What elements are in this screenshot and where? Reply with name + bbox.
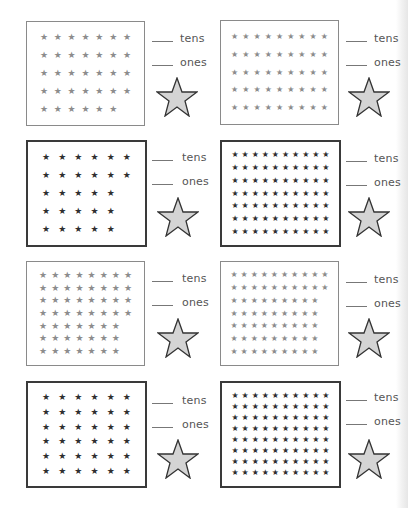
counting-star-icon: ★ [311, 177, 321, 185]
counting-star-icon: ★ [38, 393, 54, 402]
ones-answer-blank-5[interactable] [152, 305, 173, 306]
counting-star-icon: ★ [51, 51, 65, 60]
counting-star-icon: ★ [229, 284, 239, 292]
counting-star-icon: ★ [103, 408, 119, 417]
counting-star-icon: ★ [240, 202, 250, 210]
counting-star-icon: ★ [269, 348, 279, 356]
counting-star-icon: ★ [321, 177, 331, 185]
counting-star-icon: ★ [65, 33, 79, 42]
ones-answer-blank-8[interactable] [346, 424, 367, 425]
counting-star-icon: ★ [229, 69, 240, 77]
tens-label-8: tens [374, 391, 399, 404]
counting-star-icon: ★ [270, 151, 280, 159]
counting-star-icon: ★ [260, 151, 270, 159]
tens-answer-blank-7[interactable] [152, 403, 173, 404]
counting-star-icon: ★ [61, 347, 73, 356]
counting-star-icon: ★ [285, 104, 296, 112]
counting-star-icon: ★ [98, 271, 110, 280]
tens-answer-blank-4[interactable] [346, 161, 367, 162]
counting-star-icon: ★ [122, 296, 134, 305]
counting-star-icon: ★ [249, 348, 259, 356]
counting-star-icon: ★ [86, 347, 98, 356]
counting-star-icon: ★ [263, 33, 274, 41]
counting-star-icon: ★ [260, 392, 270, 400]
counting-star-icon: ★ [300, 335, 310, 343]
tens-answer-blank-3[interactable] [152, 160, 173, 161]
counting-star-icon: ★ [281, 414, 291, 422]
counting-star-icon: ★ [98, 334, 110, 343]
counting-star-icon: ★ [230, 151, 240, 159]
counting-star-icon: ★ [321, 436, 331, 444]
counting-star-icon: ★ [319, 33, 330, 41]
counting-star-icon: ★ [119, 171, 135, 180]
counting-star-icon: ★ [49, 309, 61, 318]
counting-star-icon: ★ [251, 51, 262, 59]
ones-answer-blank-3[interactable] [152, 184, 173, 185]
counting-star-icon: ★ [229, 86, 240, 94]
problem-1: ★★★★★★★★★★★★★★★★★★★★★★★★★★★★★★★★★★ tens … [26, 21, 216, 131]
ones-answer-blank-6[interactable] [346, 306, 367, 307]
tens-answer-blank-5[interactable] [152, 281, 173, 282]
counting-star-icon: ★ [92, 33, 106, 42]
counting-star-icon: ★ [311, 403, 321, 411]
counting-star-icon: ★ [291, 436, 301, 444]
counting-star-icon: ★ [250, 177, 260, 185]
counting-star-icon: ★ [49, 271, 61, 280]
counting-star-icon: ★ [240, 190, 250, 198]
counting-star-icon: ★ [119, 408, 135, 417]
counting-star-icon: ★ [280, 335, 290, 343]
ones-label-4: ones [374, 176, 401, 189]
counting-star-icon: ★ [240, 469, 250, 477]
ones-answer-blank-4[interactable] [346, 185, 367, 186]
tens-answer-blank-6[interactable] [346, 282, 367, 283]
counting-star-icon: ★ [37, 334, 49, 343]
counting-star-icon: ★ [260, 425, 270, 433]
star-box-2: ★★★★★★★★★★★★★★★★★★★★★★★★★★★★★★★★★★★★★★★★… [220, 20, 339, 125]
counting-star-icon: ★ [269, 271, 279, 279]
counting-star-icon: ★ [250, 164, 260, 172]
counting-star-icon: ★ [86, 284, 98, 293]
counting-star-icon: ★ [260, 469, 270, 477]
counting-star-icon: ★ [38, 437, 54, 446]
tens-answer-blank-1[interactable] [152, 41, 173, 42]
star-box-5: ★★★★★★★★★★★★★★★★★★★★★★★★★★★★★★★★★★★★★★★★… [26, 261, 145, 366]
counting-star-icon: ★ [92, 105, 106, 114]
counting-star-icon: ★ [239, 297, 249, 305]
counting-star-icon: ★ [61, 309, 73, 318]
star-icon [348, 439, 390, 479]
counting-star-icon: ★ [259, 310, 269, 318]
counting-star-icon: ★ [300, 322, 310, 330]
counting-star-icon: ★ [119, 467, 135, 476]
counting-star-icon: ★ [301, 151, 311, 159]
counting-star-icon: ★ [301, 190, 311, 198]
counting-star-icon: ★ [103, 423, 119, 432]
counting-star-icon: ★ [285, 51, 296, 59]
counting-star-icon: ★ [110, 322, 122, 331]
counting-star-icon: ★ [240, 392, 250, 400]
ones-answer-blank-7[interactable] [152, 427, 173, 428]
ones-answer-blank-1[interactable] [152, 65, 173, 66]
counting-star-icon: ★ [70, 467, 86, 476]
star-box-7: ★★★★★★★★★★★★★★★★★★★★★★★★★★★★★★★★★★★★ [26, 381, 147, 488]
tens-answer-blank-8[interactable] [346, 400, 367, 401]
counting-star-icon: ★ [300, 310, 310, 318]
counting-star-icon: ★ [274, 33, 285, 41]
ones-answer-blank-2[interactable] [346, 65, 367, 66]
counting-star-icon: ★ [229, 310, 239, 318]
star-box-6: ★★★★★★★★★★★★★★★★★★★★★★★★★★★★★★★★★★★★★★★★… [220, 261, 339, 366]
counting-star-icon: ★ [86, 334, 98, 343]
counting-star-icon: ★ [250, 425, 260, 433]
counting-star-icon: ★ [260, 436, 270, 444]
counting-star-icon: ★ [92, 69, 106, 78]
tens-answer-blank-2[interactable] [346, 41, 367, 42]
problem-3: ★★★★★★★★★★★★★★★★★★★★★★★★★★★ tens ones [26, 140, 216, 250]
counting-star-icon: ★ [308, 33, 319, 41]
counting-star-icon: ★ [38, 225, 54, 234]
counting-star-icon: ★ [321, 403, 331, 411]
counting-star-icon: ★ [73, 271, 85, 280]
counting-star-icon: ★ [251, 104, 262, 112]
counting-star-icon: ★ [54, 171, 70, 180]
counting-star-icon: ★ [269, 310, 279, 318]
counting-star-icon: ★ [37, 51, 51, 60]
counting-star-icon: ★ [296, 104, 307, 112]
